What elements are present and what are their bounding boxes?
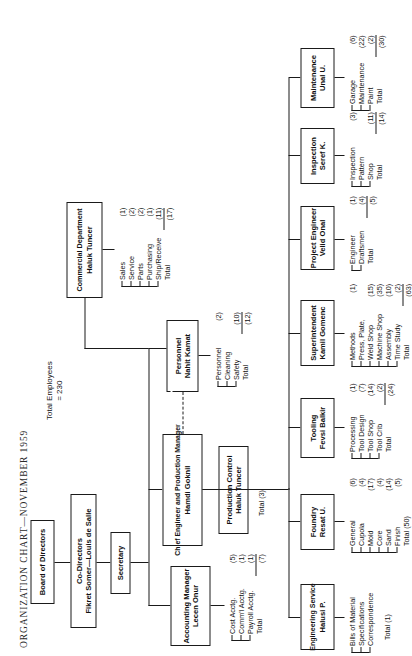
leaf-count: (24) xyxy=(384,383,393,405)
leaf-label: Engineer xyxy=(348,235,355,264)
node-label: Tooling xyxy=(308,415,317,442)
leaf-label: Total xyxy=(241,365,248,380)
leaf-count: (2) xyxy=(375,383,382,405)
node-label: Personnel xyxy=(173,338,182,375)
connector-bus-to-maintenance xyxy=(288,77,300,78)
connector-spine-to-accounting xyxy=(148,605,170,606)
connector-superintendent-to-leaves xyxy=(334,333,344,334)
leaf-count: (63) xyxy=(402,284,411,306)
node-accounting-manager[interactable]: Accounting Manager Lecen Onur xyxy=(170,566,210,646)
connector-bus-to-tooling xyxy=(288,427,300,428)
leaf-label: Cost Acctg. xyxy=(228,598,235,634)
node-board-of-directors[interactable]: Board of Directors xyxy=(30,520,54,604)
leaf-label: Weld Shop xyxy=(366,325,373,360)
leaf-label: Tool Crib xyxy=(375,424,382,452)
leaf-spine xyxy=(351,270,360,271)
leaf-count: (2) xyxy=(393,284,400,306)
leaf-count: (2) xyxy=(214,312,221,334)
node-label: Commercial Department xyxy=(75,208,84,291)
node-inspection[interactable]: Inspection Seref K. xyxy=(300,128,334,184)
connector-bus-to-project-engineer xyxy=(288,239,300,240)
leaf-label: Personnel xyxy=(214,348,221,380)
leaf-list-personnel: Personnel(2)CleaningSafety(10)Total(12) xyxy=(214,348,250,380)
node-label: Project Engineer xyxy=(308,208,317,268)
leaf-row: Total (50) xyxy=(402,516,411,546)
leaf-label: Service xyxy=(127,256,134,280)
node-secretary[interactable]: Secretary xyxy=(110,532,130,594)
leaf-count: (5) xyxy=(393,478,400,500)
connector-bus-to-superintendent xyxy=(288,333,300,334)
leaf-count: (10) xyxy=(232,312,239,334)
node-engineering-service[interactable]: Engineering Service Halusi P. xyxy=(300,584,334,650)
leaf-count: (4) xyxy=(357,478,364,500)
leaf-label: Tool Shop xyxy=(366,420,373,452)
node-co-directors[interactable]: Co-Directors Fikret Somer—Louis de Salle xyxy=(70,494,96,628)
connector-operations-bus xyxy=(288,78,289,618)
node-tooling[interactable]: Tooling Fevsi Balkir xyxy=(300,398,334,458)
node-personnel[interactable]: Personnel Nahit Kamat xyxy=(166,320,198,392)
leaf-list-engineering-service: Bills of MaterialSpecificationsCorrespon… xyxy=(348,593,375,646)
leaf-label: Draftsmen xyxy=(357,231,364,264)
leaf-list-foundry: General(6)Cupola(4)Mold(17)Core(4)Sand(1… xyxy=(348,516,411,546)
leaf-row: Correspondence xyxy=(366,593,375,646)
leaf-count: (2) xyxy=(136,208,143,230)
leaf-label: Paint xyxy=(366,88,373,104)
leaf-label: Assembly xyxy=(384,329,391,360)
leaf-spine xyxy=(351,186,369,187)
node-maintenance[interactable]: Maintenance Unal U. xyxy=(300,48,334,108)
node-project-engineer[interactable]: Project Engineer Velid Onal xyxy=(300,206,334,270)
connector-maintenance-to-leaves xyxy=(334,77,344,78)
node-sublabel: Lecen Onur xyxy=(190,585,199,627)
node-foundry[interactable]: Foundry Resat U. xyxy=(300,494,334,550)
node-sublabel: Nahit Kamat xyxy=(182,334,191,378)
node-label: Superintendent xyxy=(308,305,317,361)
node-sublabel: Hamdi Goknil xyxy=(182,466,191,515)
node-superintendent[interactable]: Superintendent Kamil Gomenc xyxy=(300,300,334,366)
leaf-label: Correspondence xyxy=(366,593,373,646)
leaf-label: Bills of Material xyxy=(348,597,355,646)
leaf-label: Cupola xyxy=(357,523,364,546)
leaf-label: Shop xyxy=(366,163,373,180)
production-control-total: Total (3) xyxy=(256,490,265,516)
node-sublabel: Haluk Tuncer xyxy=(84,226,93,274)
connector-spine-to-chief-engineer xyxy=(148,489,162,490)
node-label: Board of Directors xyxy=(37,529,46,596)
node-production-control[interactable]: Production Control Haluk Tuncer xyxy=(218,446,248,534)
leaf-count: (14) xyxy=(375,112,384,134)
connector-foundry-to-leaves xyxy=(334,521,344,522)
leaf-count: (12) xyxy=(241,312,250,334)
leaf-row: Total(63) xyxy=(402,314,411,360)
leaf-list-accounting: Cost Acctg.(5)Comm'l Acctg.(1)Payroll Ac… xyxy=(228,588,264,634)
node-commercial-department[interactable]: Commercial Department Haluk Tuncer xyxy=(66,202,102,298)
node-chief-engineer[interactable]: Chief Engineer and Production Manager Ha… xyxy=(162,434,202,546)
leaf-label: Sand xyxy=(384,529,391,546)
leaf-label: Total xyxy=(375,165,382,180)
leaf-count: (1) xyxy=(118,208,125,230)
leaf-row: Total(17) xyxy=(163,238,172,280)
leaf-count: (7) xyxy=(255,554,264,576)
leaf-count: (10) xyxy=(384,284,391,306)
leaf-count: (11) xyxy=(154,208,161,230)
total-employees-note: Total Employees = 230 xyxy=(44,361,65,420)
leaf-count: (6) xyxy=(348,35,355,57)
leaf-count: (14) xyxy=(384,478,391,500)
leaf-label: Maintenance xyxy=(357,63,364,104)
leaf-spine xyxy=(351,110,369,111)
node-label: Engineering Service xyxy=(308,583,317,650)
leaf-count: (5) xyxy=(366,196,375,218)
leaf-label: Total xyxy=(402,345,409,360)
total-employees-line1: Total Employees xyxy=(44,361,53,420)
leaf-spine xyxy=(351,652,369,653)
leaf-count: (22) xyxy=(357,35,364,57)
leaf-list-tooling: Processing(1)Tool Design(7)Tool Shop(14)… xyxy=(348,414,393,452)
node-sublabel: Fevsi Balkir xyxy=(317,407,326,450)
leaf-count: (11) xyxy=(366,112,373,134)
leaf-count: (2) xyxy=(127,208,134,230)
node-label: Co-Directors xyxy=(74,538,83,584)
leaf-label: Inspection xyxy=(348,147,355,180)
leaf-label: Pattern xyxy=(357,157,364,180)
leaf-count: (3) xyxy=(348,112,355,134)
leaf-list-inspection: Inspection(3)PatternShop(11)Total(14) xyxy=(348,147,384,180)
